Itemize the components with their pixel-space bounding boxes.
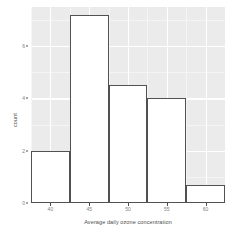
x-axis-title: Average daily ozone concentration xyxy=(31,219,225,225)
y-axis-tick-mark xyxy=(26,98,28,99)
y-axis-tick-mark xyxy=(26,203,28,204)
gridline-minor-vertical xyxy=(186,7,187,203)
y-axis-tick-label: 2 xyxy=(22,148,25,154)
x-axis-tick-label: 55 xyxy=(164,206,170,212)
x-axis-tick-label: 50 xyxy=(125,206,131,212)
histogram-bar xyxy=(186,185,225,203)
x-axis-tick-label: 40 xyxy=(48,206,54,212)
y-axis-tick-label: 4 xyxy=(22,95,25,101)
y-axis-ticks: 0246 xyxy=(14,0,28,239)
gridline-major-vertical xyxy=(206,7,207,203)
x-axis-tick-label: 45 xyxy=(86,206,92,212)
plot-panel xyxy=(31,7,225,203)
histogram-bar xyxy=(70,15,109,203)
y-axis-tick-mark xyxy=(26,150,28,151)
y-axis-tick-label: 6 xyxy=(22,43,25,49)
histogram-chart: count 0246 4045505560 Average daily ozon… xyxy=(0,0,239,239)
y-axis-tick-label: 0 xyxy=(22,200,25,206)
x-axis-tick-label: 60 xyxy=(203,206,209,212)
y-axis-tick-mark xyxy=(26,46,28,47)
histogram-bar xyxy=(109,85,148,203)
histogram-bar xyxy=(147,98,186,203)
histogram-bar xyxy=(31,151,70,203)
x-axis-ticks: 4045505560 xyxy=(31,206,225,216)
